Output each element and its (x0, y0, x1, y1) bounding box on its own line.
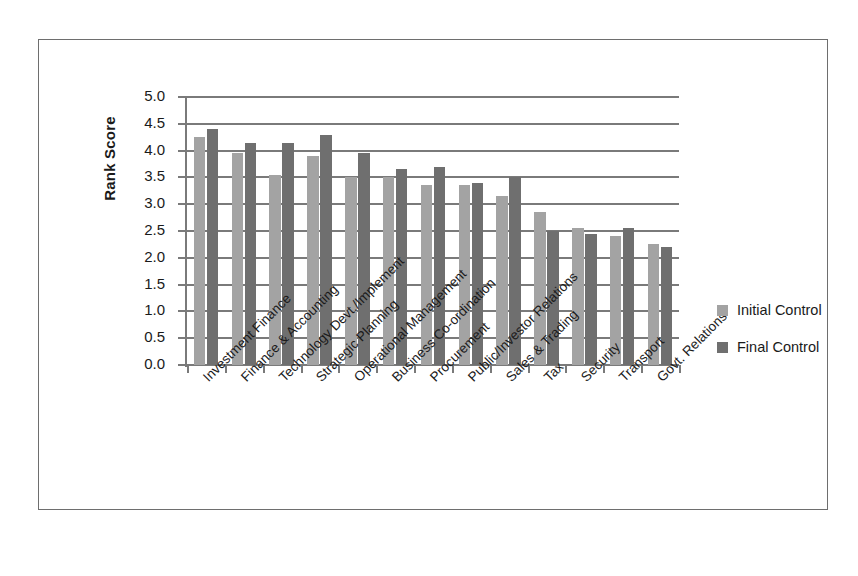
y-axis-title: Rank Score (101, 79, 118, 239)
gridline (187, 123, 679, 125)
y-axis-tick: 2.5 (178, 230, 187, 232)
y-axis-tick-label: 5.0 (144, 87, 165, 104)
y-axis-tick-label: 2.0 (144, 248, 165, 265)
legend-item: Initial Control (717, 302, 857, 318)
y-axis-tick-label: 1.0 (144, 302, 165, 319)
y-axis-tick: 0.5 (178, 337, 187, 339)
bar (572, 228, 584, 365)
x-axis-labels-group: Investment FinanceFinance & AccountingTe… (187, 374, 707, 514)
bar (207, 129, 219, 365)
gridline (187, 96, 679, 98)
legend-item: Final Control (717, 339, 857, 355)
y-axis-tick: 4.5 (178, 123, 187, 125)
y-axis-tick: 1.0 (178, 310, 187, 312)
legend-label: Final Control (737, 339, 819, 355)
legend-swatch-icon (717, 305, 728, 316)
y-axis-tick-label: 0.0 (144, 355, 165, 372)
y-axis-tick: 4.0 (178, 150, 187, 152)
x-axis-tick (187, 365, 189, 373)
y-axis-tick-label: 2.5 (144, 221, 165, 238)
y-axis-tick-label: 3.0 (144, 194, 165, 211)
bar (585, 234, 597, 365)
y-axis-tick: 3.0 (178, 203, 187, 205)
legend-label: Initial Control (737, 302, 822, 318)
y-axis-tick-label: 0.5 (144, 328, 165, 345)
y-axis-tick: 5.0 (178, 96, 187, 98)
y-axis-tick-label: 3.5 (144, 168, 165, 185)
y-axis-tick: 0.0 (178, 364, 187, 366)
y-axis-tick: 3.5 (178, 176, 187, 178)
chart-frame: Rank Score 5.04.54.03.53.02.52.01.51.00.… (38, 39, 828, 510)
bar (623, 228, 635, 365)
bar (194, 137, 206, 365)
legend-swatch-icon (717, 342, 728, 353)
y-axis-tick-label: 1.5 (144, 275, 165, 292)
y-axis-tick-label: 4.5 (144, 114, 165, 131)
y-axis-line (185, 97, 187, 367)
y-axis-tick: 1.5 (178, 284, 187, 286)
chart-figure: Rank Score 5.04.54.03.53.02.52.01.51.00.… (0, 0, 858, 576)
y-axis-tick: 2.0 (178, 257, 187, 259)
y-axis-tick-label: 4.0 (144, 141, 165, 158)
gridline (187, 150, 679, 152)
chart-legend: Initial ControlFinal Control (717, 302, 857, 376)
